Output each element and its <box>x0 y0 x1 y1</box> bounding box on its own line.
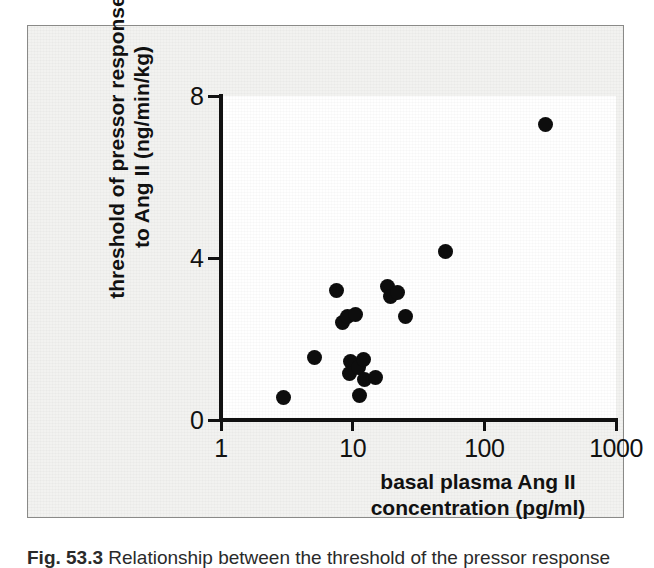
y-tick-4 <box>208 257 221 260</box>
y-tick-label-4: 4 <box>178 244 204 273</box>
data-point <box>538 117 553 132</box>
caption-label: Fig. 53.3 <box>27 547 103 568</box>
y-tick-0 <box>208 419 221 422</box>
plot-area <box>221 96 616 420</box>
y-axis-title-line2: to Ang II (ng/min/kg) <box>129 0 154 312</box>
figure-root: 1101001000 048 threshold of pressor resp… <box>0 0 654 568</box>
x-tick-label-1000: 1000 <box>589 434 643 463</box>
y-tick-label-8: 8 <box>178 82 204 111</box>
x-tick-1000 <box>615 418 618 431</box>
x-axis-title: basal plasma Ang II concentration (pg/ml… <box>328 469 628 521</box>
data-point <box>356 352 371 367</box>
y-axis-title: threshold of pressor response to Ang II … <box>104 0 154 312</box>
caption-text: Relationship between the threshold of th… <box>108 547 610 568</box>
x-tick-label-1: 1 <box>214 434 227 463</box>
data-point <box>398 309 413 324</box>
x-tick-100 <box>483 418 486 431</box>
x-tick-label-100: 100 <box>464 434 504 463</box>
x-axis-title-line2: concentration (pg/ml) <box>328 495 628 521</box>
y-tick-label-0: 0 <box>178 406 204 435</box>
figure-caption: Fig. 53.3 Relationship between the thres… <box>27 546 627 568</box>
y-tick-8 <box>208 95 221 98</box>
x-axis-line <box>219 418 618 422</box>
x-axis-title-line1: basal plasma Ang II <box>328 469 628 495</box>
x-tick-label-10: 10 <box>339 434 366 463</box>
x-tick-10 <box>351 418 354 431</box>
y-axis-title-line1: threshold of pressor response <box>104 0 129 312</box>
data-point <box>307 350 322 365</box>
figure-panel: 1101001000 048 threshold of pressor resp… <box>27 25 624 518</box>
